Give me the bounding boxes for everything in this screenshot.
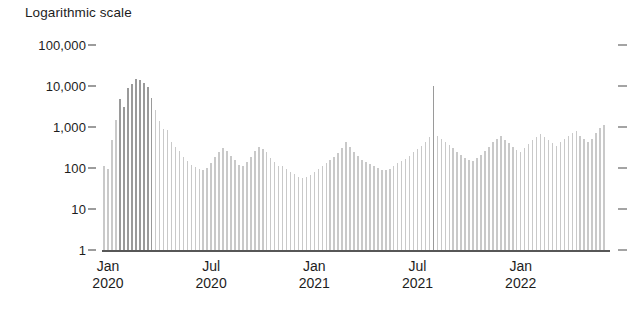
bar xyxy=(595,133,597,250)
x-tick-month: Jul xyxy=(196,258,227,275)
bar xyxy=(512,147,514,250)
bar xyxy=(199,169,201,250)
x-tick-year: 2020 xyxy=(92,275,123,292)
bar xyxy=(238,165,240,250)
bar xyxy=(369,164,371,250)
bar xyxy=(187,161,189,250)
bar xyxy=(540,134,542,250)
bar xyxy=(377,168,379,250)
bar xyxy=(119,99,121,250)
bar xyxy=(528,144,530,250)
bar xyxy=(357,156,359,250)
x-tick-label: Jan2020 xyxy=(92,258,123,292)
y-tick-mark-right xyxy=(618,250,627,251)
bar xyxy=(449,145,451,250)
x-tick-label: Jan2021 xyxy=(299,258,330,292)
bar xyxy=(484,151,486,250)
bar xyxy=(500,136,502,250)
bar xyxy=(472,161,474,250)
x-tick-year: 2020 xyxy=(196,275,227,292)
bar xyxy=(452,148,454,250)
bar xyxy=(437,136,439,250)
bar xyxy=(230,156,232,250)
bar xyxy=(286,169,288,250)
x-tick-label: Jul2020 xyxy=(196,258,227,292)
bar xyxy=(464,158,466,250)
bar xyxy=(401,161,403,250)
bar xyxy=(183,157,185,250)
bar xyxy=(349,147,351,250)
y-tick-label: 1,000 xyxy=(53,120,86,135)
y-tick-mark xyxy=(88,250,96,251)
bar xyxy=(254,151,256,250)
bar xyxy=(258,147,260,250)
y-tick-mark xyxy=(88,127,96,128)
bar xyxy=(476,158,478,250)
y-tick-label: 1 xyxy=(79,243,86,258)
x-tick-year: 2021 xyxy=(299,275,330,292)
bar xyxy=(147,87,149,250)
bar xyxy=(314,172,316,250)
bar xyxy=(445,142,447,250)
bar xyxy=(504,140,506,250)
bar xyxy=(195,167,197,250)
bar xyxy=(210,163,212,250)
y-tick-mark xyxy=(88,209,96,210)
bar xyxy=(107,169,109,250)
bar xyxy=(234,160,236,250)
bar xyxy=(135,79,137,250)
bar xyxy=(413,152,415,250)
bar xyxy=(159,121,161,250)
bar xyxy=(508,143,510,250)
y-tick-mark-right xyxy=(618,209,627,210)
bar xyxy=(381,170,383,251)
y-tick-mark-right xyxy=(618,127,627,128)
bar xyxy=(191,165,193,250)
bar xyxy=(568,136,570,250)
bar xyxy=(278,166,280,250)
bar xyxy=(456,152,458,250)
bar xyxy=(536,137,538,250)
bar xyxy=(365,162,367,250)
x-tick-month: Jan xyxy=(505,258,536,275)
y-tick-mark xyxy=(88,45,96,46)
bar xyxy=(218,152,220,250)
x-tick-year: 2022 xyxy=(505,275,536,292)
bar xyxy=(115,120,117,250)
bar xyxy=(143,83,145,250)
bar xyxy=(599,128,601,250)
bar xyxy=(127,88,129,250)
bar xyxy=(266,152,268,250)
bar xyxy=(579,136,581,250)
bar xyxy=(333,157,335,250)
bar xyxy=(468,160,470,250)
bar xyxy=(496,139,498,250)
bar xyxy=(409,156,411,250)
bar xyxy=(179,151,181,250)
bar xyxy=(202,170,204,251)
bar xyxy=(389,169,391,250)
bar xyxy=(171,142,173,250)
bar xyxy=(397,163,399,250)
bar xyxy=(421,146,423,250)
bar xyxy=(433,86,435,250)
bar xyxy=(488,147,490,250)
bar xyxy=(294,174,296,250)
x-tick-month: Jan xyxy=(299,258,330,275)
bar xyxy=(587,142,589,250)
bar xyxy=(151,98,153,250)
bar xyxy=(111,140,113,250)
bar xyxy=(206,168,208,250)
bar xyxy=(425,142,427,250)
bar xyxy=(552,143,554,250)
bar xyxy=(429,137,431,250)
bar xyxy=(329,160,331,250)
bar xyxy=(310,175,312,250)
bar xyxy=(480,155,482,250)
bar xyxy=(326,163,328,250)
bar xyxy=(214,157,216,250)
x-tick-year: 2021 xyxy=(402,275,433,292)
bar xyxy=(175,147,177,250)
bar xyxy=(516,150,518,250)
bar xyxy=(556,146,558,250)
